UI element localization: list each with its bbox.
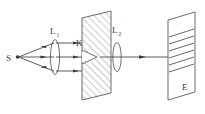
plate-K-slit-gap — [82, 52, 95, 62]
optics-diagram-svg: S L 1 — [0, 0, 205, 114]
lens-L1-sublabel: 1 — [57, 32, 60, 38]
plate-K-label: K — [76, 38, 83, 48]
arrowhead-diverging-middle-icon — [41, 56, 47, 59]
source-label: S — [6, 53, 11, 63]
diverging-ray-upper — [19, 43, 55, 57]
lens-L2-sublabel: 2 — [119, 31, 122, 37]
arrowhead-parallel-middle-icon — [73, 55, 79, 58]
diverging-ray-lower — [19, 57, 55, 71]
screen-E-label: E — [182, 82, 188, 92]
arrowhead-parallel-lower-icon — [73, 69, 79, 72]
arrowhead-output-icon — [139, 55, 146, 59]
lens-L1-label: L — [50, 26, 56, 36]
lens-L1-group: L 1 — [50, 26, 60, 75]
lens-L2-label: L — [112, 25, 118, 35]
plate-K-group: K — [76, 11, 111, 100]
source-group: S — [6, 53, 19, 63]
lens-L2-group: L 2 — [112, 25, 122, 72]
diverging-rays-group — [19, 43, 55, 71]
screen-E-group: E — [168, 12, 195, 100]
optics-diagram-figure: S L 1 — [0, 0, 205, 114]
